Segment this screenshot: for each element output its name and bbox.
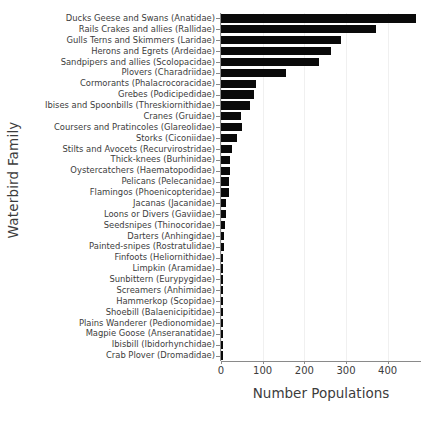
bar-row: Pelicans (Pelecanidae) — [0, 176, 433, 187]
y-axis-tick-mark — [216, 29, 220, 30]
y-axis-tick-label: Plains Wanderer (Pedionomidae) — [79, 318, 215, 329]
bar — [221, 264, 223, 272]
y-axis-tick-label: Ibises and Spoonbills (Threskiornithidae… — [45, 100, 215, 111]
y-axis-tick-label: Screamers (Anhimidae) — [116, 285, 215, 296]
bar-row: Storks (Ciconiidae) — [0, 133, 433, 144]
y-axis-tick-label: Darters (Anhingidae) — [127, 231, 215, 242]
x-axis-tick-label: 0 — [218, 365, 224, 376]
bar-row: Plovers (Charadriidae) — [0, 67, 433, 78]
y-axis-tick-label: Flamingos (Phoenicopteridae) — [90, 187, 215, 198]
bar — [221, 286, 223, 294]
y-axis-tick-mark — [216, 301, 220, 302]
bar-row: Magpie Goose (Anseranatidae) — [0, 328, 433, 339]
bar-row: Loons or Divers (Gaviidae) — [0, 209, 433, 220]
bar-row: Plains Wanderer (Pedionomidae) — [0, 318, 433, 329]
bar — [221, 101, 250, 109]
x-axis-tick-label: 100 — [253, 365, 272, 376]
bar — [221, 199, 226, 207]
y-axis-tick-mark — [216, 73, 220, 74]
bar — [221, 275, 223, 283]
y-axis-tick-label: Oystercatchers (Haematopodidae) — [70, 165, 215, 176]
y-axis-tick-mark — [216, 105, 220, 106]
y-axis-tick-mark — [216, 225, 220, 226]
bar — [221, 90, 254, 98]
bar — [221, 297, 223, 305]
bar — [221, 232, 224, 240]
y-axis-tick-mark — [216, 334, 220, 335]
bar-row: Sunbittern (Eurypygidae) — [0, 274, 433, 285]
y-axis-tick-mark — [216, 51, 220, 52]
y-axis-tick-mark — [216, 203, 220, 204]
y-axis-tick-label: Cranes (Gruidae) — [143, 111, 215, 122]
x-axis-tick-label: 400 — [378, 365, 397, 376]
x-axis-tick-mark — [263, 361, 264, 364]
bar — [221, 58, 319, 66]
bar-row: Ibisbill (Ibidorhynchidae) — [0, 339, 433, 350]
bar-row: Darters (Anhingidae) — [0, 231, 433, 242]
bar — [221, 243, 224, 251]
y-axis-tick-label: Crab Plover (Dromadidae) — [106, 350, 215, 361]
y-axis-tick-mark — [216, 258, 220, 259]
bar — [221, 134, 237, 142]
y-axis-tick-mark — [216, 236, 220, 237]
x-axis-title: Number Populations — [221, 385, 421, 401]
y-axis-tick-label: Pelicans (Pelecanidae) — [121, 176, 215, 187]
bar — [221, 167, 230, 175]
bar — [221, 330, 223, 338]
y-axis-tick-mark — [216, 182, 220, 183]
y-axis-tick-label: Jacanas (Jacanidae) — [133, 198, 215, 209]
y-axis-tick-mark — [216, 62, 220, 63]
y-axis-tick-label: Magpie Goose (Anseranatidae) — [86, 328, 215, 339]
y-axis-tick-label: Gulls Terns and Skimmers (Laridae) — [66, 35, 215, 46]
bar — [221, 123, 242, 131]
y-axis-tick-mark — [216, 279, 220, 280]
bar-row: Seedsnipes (Thinocoridae) — [0, 220, 433, 231]
bar-row: Ibises and Spoonbills (Threskiornithidae… — [0, 100, 433, 111]
bar-row: Stilts and Avocets (Recurvirostridae) — [0, 144, 433, 155]
y-axis-tick-label: Stilts and Avocets (Recurvirostridae) — [62, 144, 215, 155]
y-axis-tick-label: Plovers (Charadriidae) — [122, 67, 216, 78]
y-axis-tick-mark — [216, 171, 220, 172]
y-axis-tick-mark — [216, 345, 220, 346]
y-axis-tick-label: Painted-snipes (Rostratulidae) — [89, 241, 215, 252]
x-axis-tick-mark — [304, 361, 305, 364]
y-axis-tick-label: Cormorants (Phalacrocoracidae) — [80, 78, 215, 89]
x-axis-tick-mark — [346, 361, 347, 364]
bar — [221, 36, 341, 44]
bar-row: Limpkin (Aramidae) — [0, 263, 433, 274]
chart-figure: Waterbird Family Ducks Geese and Swans (… — [0, 0, 433, 421]
x-axis-ticks: 0100200300400 — [0, 361, 433, 379]
bar-row: Crab Plover (Dromadidae) — [0, 350, 433, 361]
y-axis-tick-label: Coursers and Pratincoles (Glareolidae) — [54, 122, 215, 133]
bar-row: Cormorants (Phalacrocoracidae) — [0, 78, 433, 89]
y-axis-tick-label: Ibisbill (Ibidorhynchidae) — [112, 339, 215, 350]
y-axis-tick-mark — [216, 312, 220, 313]
x-axis-tick-label: 200 — [295, 365, 314, 376]
y-axis-tick-label: Sandpipers and allies (Scolopacidae) — [61, 57, 215, 68]
y-axis-tick-label: Thick-knees (Burhinidae) — [111, 154, 215, 165]
bar-row: Rails Crakes and allies (Rallidae) — [0, 24, 433, 35]
bar — [221, 47, 331, 55]
y-axis-tick-mark — [216, 290, 220, 291]
x-axis-tick-mark — [221, 361, 222, 364]
y-axis-tick-mark — [216, 269, 220, 270]
y-axis-tick-mark — [216, 160, 220, 161]
y-axis-tick-label: Ducks Geese and Swans (Anatidae) — [66, 13, 215, 24]
bar — [221, 210, 226, 218]
bar-row: Ducks Geese and Swans (Anatidae) — [0, 13, 433, 24]
y-axis-tick-mark — [216, 84, 220, 85]
bar-row: Oystercatchers (Haematopodidae) — [0, 165, 433, 176]
y-axis-tick-label: Rails Crakes and allies (Rallidae) — [79, 24, 215, 35]
bar-row: Sandpipers and allies (Scolopacidae) — [0, 57, 433, 68]
y-axis-tick-mark — [216, 138, 220, 139]
bar — [221, 308, 223, 316]
bar-row: Hammerkop (Scopidae) — [0, 296, 433, 307]
bar-row: Finfoots (Heliornithidae) — [0, 252, 433, 263]
bar — [221, 69, 286, 77]
bar-row: Thick-knees (Burhinidae) — [0, 154, 433, 165]
bar — [221, 80, 256, 88]
bar-row: Herons and Egrets (Ardeidae) — [0, 46, 433, 57]
y-axis-tick-label: Shoebill (Balaenicipitidae) — [106, 307, 215, 318]
y-axis-tick-mark — [216, 40, 220, 41]
y-axis-tick-label: Sunbittern (Eurypygidae) — [109, 274, 215, 285]
